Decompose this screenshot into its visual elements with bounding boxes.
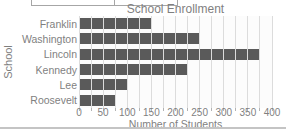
gridline (259, 16, 260, 108)
gridline (79, 16, 80, 108)
chart-title: School Enrollment (79, 3, 272, 16)
gridline (247, 16, 248, 108)
y-label-franklin: Franklin (16, 16, 77, 31)
gridline (127, 16, 128, 108)
x-tick-label-400: 400 (264, 107, 281, 118)
y-label-lincoln: Lincoln (16, 47, 77, 62)
x-tick-label-300: 300 (215, 107, 232, 118)
gridline (115, 16, 116, 108)
x-tick-label-150: 150 (143, 107, 160, 118)
gridline (235, 16, 236, 108)
gridline (187, 16, 188, 108)
bottom-divider-line (0, 127, 286, 129)
gridline (103, 16, 104, 108)
gridline (272, 16, 273, 108)
bar-lincoln (79, 49, 260, 60)
y-axis-labels: FranklinWashingtonLincolnKennedyLeeRoose… (16, 16, 77, 108)
gridline (175, 16, 176, 108)
x-tick-label-350: 350 (240, 107, 257, 118)
x-tick-label-0: 0 (76, 107, 82, 118)
y-label-roosevelt: Roosevelt (16, 93, 77, 108)
y-label-lee: Lee (16, 77, 77, 92)
bar-roosevelt (79, 95, 115, 106)
y-axis-title: School (0, 16, 16, 108)
y-label-washington: Washington (16, 31, 77, 46)
gridline (211, 16, 212, 108)
x-tick-label-100: 100 (119, 107, 136, 118)
gridline (163, 16, 164, 108)
x-tick-label-50: 50 (98, 107, 109, 118)
gridline (223, 16, 224, 108)
x-tick-label-200: 200 (167, 107, 184, 118)
gridline (199, 16, 200, 108)
gridline (91, 16, 92, 108)
y-axis-title-text: School (2, 45, 14, 79)
bar-kennedy (79, 64, 188, 75)
gridline (139, 16, 140, 108)
x-tick-label-250: 250 (191, 107, 208, 118)
plot-area (79, 16, 272, 108)
y-label-kennedy: Kennedy (16, 62, 77, 77)
screenshot-root: School Enrollment School FranklinWashing… (0, 0, 286, 130)
gridline (151, 16, 152, 108)
